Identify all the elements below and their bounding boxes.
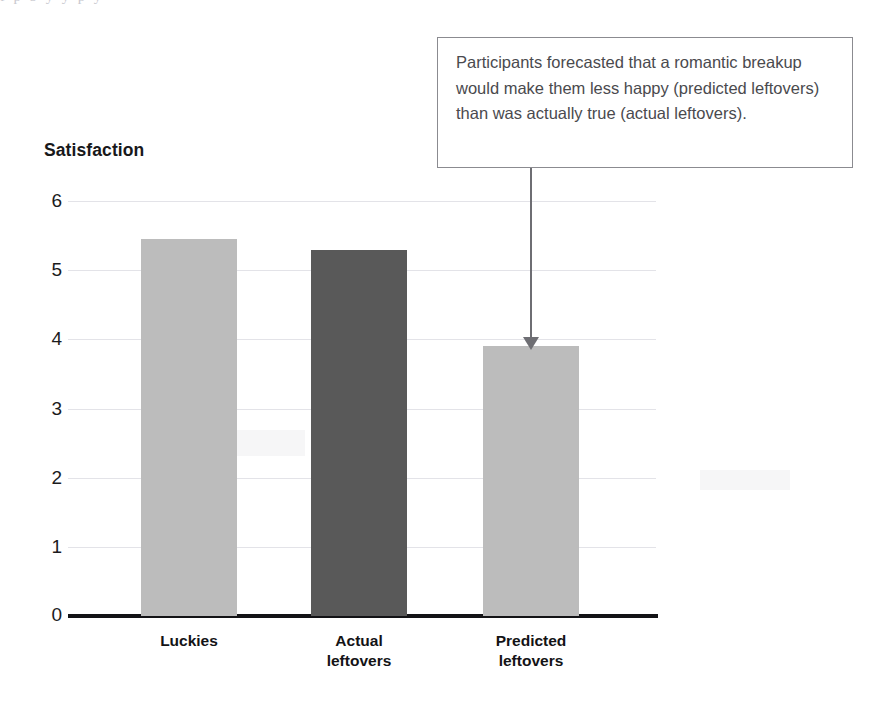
- category-label-actual-leftovers: Actual leftovers: [264, 631, 454, 671]
- bar-predicted-leftovers: [483, 346, 579, 616]
- annotation-text: Participants forecasted that a romantic …: [456, 50, 838, 127]
- bar-luckies: [141, 239, 237, 616]
- y-tick-label-0: 0: [22, 604, 62, 626]
- chart-page: f p b y y p y Satisfaction 6 5 4 3 2 1 0…: [0, 0, 893, 722]
- y-tick-label-4: 4: [22, 328, 62, 350]
- bar-actual-leftovers: [311, 250, 407, 616]
- category-label-line: Luckies: [94, 631, 284, 651]
- category-label-line: leftovers: [264, 651, 454, 671]
- category-label-line: Actual: [264, 631, 454, 651]
- y-tick-label-5: 5: [22, 259, 62, 281]
- annotation-leader-line: [530, 168, 532, 341]
- category-label-luckies: Luckies: [94, 631, 284, 651]
- y-tick-label-2: 2: [22, 467, 62, 489]
- category-label-predicted-leftovers: Predicted leftovers: [436, 631, 626, 671]
- annotation-callout-box: Participants forecasted that a romantic …: [437, 37, 853, 168]
- gridline-6: [68, 201, 656, 202]
- y-tick-label-1: 1: [22, 536, 62, 558]
- category-label-line: Predicted: [436, 631, 626, 651]
- y-tick-label-6: 6: [22, 190, 62, 212]
- annotation-arrowhead-icon: [523, 337, 539, 350]
- category-label-line: leftovers: [436, 651, 626, 671]
- y-tick-label-3: 3: [22, 398, 62, 420]
